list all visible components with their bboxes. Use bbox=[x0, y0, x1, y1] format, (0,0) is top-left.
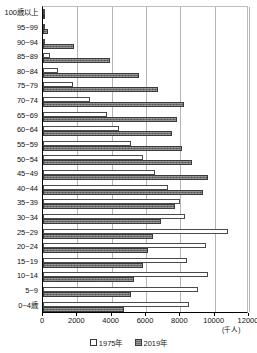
bar-2019-50~54 bbox=[43, 160, 192, 165]
bar-2019-30~34 bbox=[43, 219, 161, 224]
y-axis-label-55~59: 55~59 bbox=[17, 141, 38, 149]
y-axis-labels: 100歳以上95~9990~9485~8980~8475~7970~7465~6… bbox=[0, 6, 40, 313]
bar-2019-35~39 bbox=[43, 204, 175, 209]
legend-label-2019: 2019年 bbox=[144, 337, 168, 348]
bar-2019-100歳以上 bbox=[43, 14, 45, 19]
bar-row bbox=[43, 285, 247, 300]
y-axis-label-10~14: 10~14 bbox=[17, 272, 38, 280]
bar-2019-95~99 bbox=[43, 29, 48, 34]
y-axis-label-35~39: 35~39 bbox=[17, 199, 38, 207]
y-axis-label-0~4歳: 0~4歳 bbox=[18, 302, 38, 310]
x-tick-label-4000: 4000 bbox=[102, 316, 119, 325]
y-axis-label-65~69: 65~69 bbox=[17, 112, 38, 120]
bar-row bbox=[43, 65, 247, 80]
bar-row bbox=[43, 270, 247, 285]
bar-row bbox=[43, 124, 247, 139]
y-axis-label-40~44: 40~44 bbox=[17, 185, 38, 193]
y-axis-label-45~49: 45~49 bbox=[17, 170, 38, 178]
x-tick-label-8000: 8000 bbox=[171, 316, 188, 325]
bar-2019-65~69 bbox=[43, 117, 177, 122]
y-axis-label-60~64: 60~64 bbox=[17, 126, 38, 134]
legend-label-1975: 1975年 bbox=[99, 337, 123, 348]
x-tick-label-10000: 10000 bbox=[203, 316, 224, 325]
x-tick-label-0: 0 bbox=[40, 316, 44, 325]
bar-row bbox=[43, 153, 247, 168]
population-bar-chart: 100歳以上95~9990~9485~8980~8475~7970~7465~6… bbox=[0, 0, 257, 353]
legend-item-1975: 1975年 bbox=[90, 337, 123, 348]
bar-row bbox=[43, 197, 247, 212]
bar-2019-70~74 bbox=[43, 102, 184, 107]
bar-row bbox=[43, 95, 247, 110]
x-tick-label-2000: 2000 bbox=[68, 316, 85, 325]
bar-2019-85~89 bbox=[43, 58, 110, 63]
bar-2019-55~59 bbox=[43, 146, 182, 151]
y-axis-label-85~89: 85~89 bbox=[17, 53, 38, 61]
bar-2019-10~14 bbox=[43, 277, 134, 282]
legend-swatch-2019-icon bbox=[135, 339, 142, 346]
bar-2019-60~64 bbox=[43, 131, 172, 136]
bar-2019-75~79 bbox=[43, 87, 158, 92]
bar-row bbox=[43, 51, 247, 66]
y-axis-label-15~19: 15~19 bbox=[17, 258, 38, 266]
bar-row bbox=[43, 139, 247, 154]
bar-row bbox=[43, 109, 247, 124]
bar-row bbox=[43, 212, 247, 227]
chart-legend: 1975年 2019年 bbox=[0, 337, 257, 348]
y-axis-label-50~54: 50~54 bbox=[17, 156, 38, 164]
bar-row bbox=[43, 226, 247, 241]
y-axis-label-20~24: 20~24 bbox=[17, 243, 38, 251]
y-axis-label-100歳以上: 100歳以上 bbox=[4, 9, 38, 17]
bar-row bbox=[43, 7, 247, 22]
x-axis-unit: (千人) bbox=[222, 324, 240, 334]
bar-2019-20~24 bbox=[43, 248, 148, 253]
bar-2019-40~44 bbox=[43, 190, 203, 195]
legend-item-2019: 2019年 bbox=[135, 337, 168, 348]
y-axis-label-30~34: 30~34 bbox=[17, 214, 38, 222]
bar-row bbox=[43, 256, 247, 271]
bar-2019-25~29 bbox=[43, 234, 153, 239]
y-axis-label-75~79: 75~79 bbox=[17, 82, 38, 90]
x-tick-label-6000: 6000 bbox=[137, 316, 154, 325]
bar-2019-15~19 bbox=[43, 263, 143, 268]
bar-2019-5~9 bbox=[43, 292, 131, 297]
y-axis-label-80~84: 80~84 bbox=[17, 68, 38, 76]
x-tick-label-12000: 12000 bbox=[238, 316, 257, 325]
bar-2019-90~94 bbox=[43, 44, 74, 49]
bar-row bbox=[43, 36, 247, 51]
gridline-12000 bbox=[249, 7, 250, 312]
bar-2019-80~84 bbox=[43, 73, 139, 78]
bar-2019-0~4歳 bbox=[43, 307, 124, 312]
bar-row bbox=[43, 299, 247, 314]
legend-swatch-1975-icon bbox=[90, 339, 97, 346]
bar-row bbox=[43, 241, 247, 256]
y-axis-label-25~29: 25~29 bbox=[17, 229, 38, 237]
y-axis-label-95~99: 95~99 bbox=[17, 24, 38, 32]
bar-rows bbox=[43, 7, 247, 312]
y-axis-label-70~74: 70~74 bbox=[17, 97, 38, 105]
x-axis: 020004000600080001000012000 bbox=[42, 313, 248, 325]
bar-row bbox=[43, 168, 247, 183]
bar-row bbox=[43, 182, 247, 197]
y-axis-label-5~9: 5~9 bbox=[25, 287, 38, 295]
bar-row bbox=[43, 80, 247, 95]
bar-2019-45~49 bbox=[43, 175, 208, 180]
y-axis-label-90~94: 90~94 bbox=[17, 39, 38, 47]
bar-row bbox=[43, 22, 247, 37]
plot-area bbox=[42, 6, 248, 313]
